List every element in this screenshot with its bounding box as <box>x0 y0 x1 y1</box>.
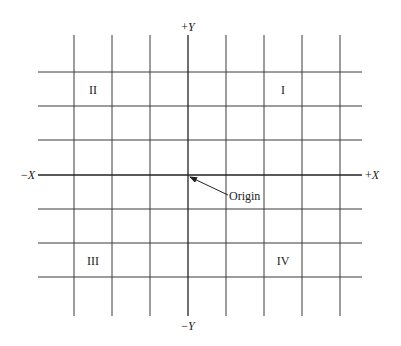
origin-label: Origin <box>229 189 260 203</box>
origin-pointer-arrow <box>190 177 228 195</box>
x-positive-label: +X <box>365 168 380 182</box>
quadrant-i-label: I <box>281 83 285 97</box>
y-positive-label: +Y <box>181 20 196 34</box>
quadrant-iv-label: IV <box>277 254 290 268</box>
y-negative-label: −Y <box>181 319 196 333</box>
quadrant-ii-label: II <box>89 83 97 97</box>
coordinate-plane-diagram: +Y −Y −X +X II I III IV Origin <box>0 0 401 346</box>
quadrant-iii-label: III <box>87 254 99 268</box>
x-negative-label: −X <box>21 168 36 182</box>
